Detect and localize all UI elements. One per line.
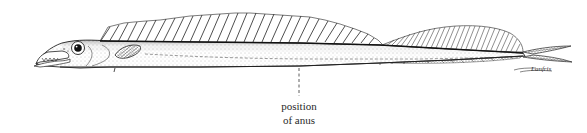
first-dorsal-fin [100,13,382,44]
annotation-line2: of anus [264,114,334,127]
fish-diagram: Lanfris position of anus [0,0,587,133]
svg-text:Lanfris: Lanfris [530,65,552,73]
annotation-line1: position [264,100,334,113]
artist-signature: Lanfris [514,65,552,73]
caudal-fin [523,46,572,62]
